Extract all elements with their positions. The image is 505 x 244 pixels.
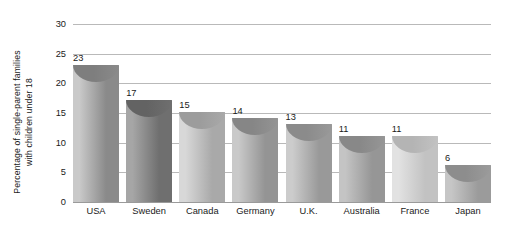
bar[interactable]: 23 (73, 66, 119, 202)
bar-slot: 13 (286, 24, 332, 202)
x-axis-label-canada: Canada (179, 206, 225, 216)
y-axis-tick-label: 10 (56, 138, 66, 148)
y-axis-title: Percentage of single-parent families wit… (0, 0, 46, 244)
x-axis-label-sweden: Sweden (126, 206, 172, 216)
x-axis-labels: USASwedenCanadaGermanyU.K.AustraliaFranc… (73, 206, 491, 216)
plot-area: 051015202530 231715141311116 (73, 24, 491, 202)
y-axis-tick-label: 0 (61, 197, 66, 207)
x-axis-label-australia: Australia (339, 206, 385, 216)
bar[interactable]: 17 (126, 101, 172, 202)
bar[interactable]: 14 (232, 119, 278, 202)
bar-slot: 11 (392, 24, 438, 202)
x-axis-label-u-k: U.K. (286, 206, 332, 216)
x-axis-label-usa: USA (73, 206, 119, 216)
bar-value-label: 17 (126, 88, 136, 98)
bar[interactable]: 15 (179, 113, 225, 202)
y-axis-title-line-1: Percentage of single-parent families (11, 50, 23, 193)
bar-value-label: 13 (286, 112, 296, 122)
bar-slot: 14 (232, 24, 278, 202)
bar-slot: 23 (73, 24, 119, 202)
bar-slot: 6 (445, 24, 491, 202)
bar[interactable]: 6 (445, 166, 491, 202)
x-axis-label-germany: Germany (232, 206, 278, 216)
x-axis-label-france: France (392, 206, 438, 216)
bar-slot: 17 (126, 24, 172, 202)
y-axis-tick-label: 20 (56, 78, 66, 88)
y-axis-tick-label: 25 (56, 49, 66, 59)
bar-body (73, 66, 119, 202)
bar-value-label: 6 (445, 153, 450, 163)
bar[interactable]: 13 (286, 125, 332, 202)
bars-group: 231715141311116 (73, 24, 491, 202)
bar-value-label: 15 (179, 100, 189, 110)
y-axis-title-line-2: with children under 18 (23, 50, 35, 193)
bar[interactable]: 11 (339, 137, 385, 202)
bar-value-label: 11 (392, 124, 402, 134)
bar-slot: 11 (339, 24, 385, 202)
bar-value-label: 14 (232, 106, 242, 116)
bar-value-label: 11 (339, 124, 349, 134)
bar-chart: Percentage of single-parent families wit… (0, 0, 505, 244)
y-axis-tick-label: 5 (61, 167, 66, 177)
y-axis-tick-label: 30 (56, 19, 66, 29)
gridline (73, 202, 491, 203)
bar-value-label: 23 (73, 53, 83, 63)
x-axis-label-japan: Japan (445, 206, 491, 216)
bar-slot: 15 (179, 24, 225, 202)
y-axis-tick-label: 15 (56, 108, 66, 118)
bar[interactable]: 11 (392, 137, 438, 202)
